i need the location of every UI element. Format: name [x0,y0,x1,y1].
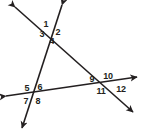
angle-label-12: 12 [116,85,126,94]
lines-group [6,5,137,128]
angle-label-6: 6 [38,83,43,92]
angle-label-4: 4 [50,37,55,46]
geometry-figure: 123456789101112 [0,0,142,137]
upper-right-to-lower-left-line [22,5,62,128]
angle-label-2: 2 [56,28,61,37]
angle-label-10: 10 [103,72,113,81]
angle-label-5: 5 [25,84,30,93]
angle-label-3: 3 [40,30,45,39]
geometry-lines-canvas [0,0,142,137]
angle-label-7: 7 [24,97,29,106]
angle-label-11: 11 [96,87,105,96]
angle-label-8: 8 [36,97,41,106]
angle-label-9: 9 [90,75,95,84]
angle-label-1: 1 [44,20,49,29]
